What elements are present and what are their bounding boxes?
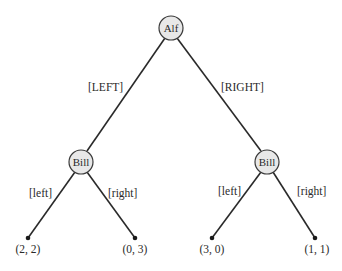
leaf-dot-3 (210, 236, 215, 241)
leaf-dot-1 (26, 236, 31, 241)
edge-label-bill-right-left: [left] (218, 185, 241, 197)
node-label-bill-left: Bill (73, 156, 90, 168)
game-tree-diagram: Alf Bill Bill [LEFT] [RIGHT] [left] [rig… (0, 0, 342, 271)
edge-label-bill-left-left: [left] (29, 187, 52, 199)
node-alf: Alf (159, 16, 183, 40)
node-label-bill-right: Bill (259, 156, 276, 168)
edge-label-LEFT: [LEFT] (88, 81, 123, 93)
payoff-3: (3, 0) (200, 243, 225, 256)
edge-label-RIGHT: [RIGHT] (221, 81, 264, 93)
node-label-alf: Alf (164, 22, 179, 34)
edge-bill-right-left (212, 172, 261, 238)
payoff-4: (1, 1) (305, 243, 330, 256)
payoff-2: (0, 3) (123, 243, 148, 256)
edge-label-bill-right-right: [right] (297, 185, 326, 198)
edge-bill-right-right (273, 172, 315, 238)
leaf-dot-4 (313, 236, 318, 241)
leaf-dot-2 (133, 236, 138, 241)
edge-bill-left-right (87, 172, 135, 238)
payoff-1: (2, 2) (16, 243, 41, 256)
edge-alf-left (87, 38, 165, 151)
edge-label-bill-left-right: [right] (108, 187, 137, 200)
node-bill-left: Bill (69, 150, 93, 174)
edge-bill-left-left (28, 172, 75, 238)
node-bill-right: Bill (255, 150, 279, 174)
edge-alf-right (177, 38, 261, 151)
